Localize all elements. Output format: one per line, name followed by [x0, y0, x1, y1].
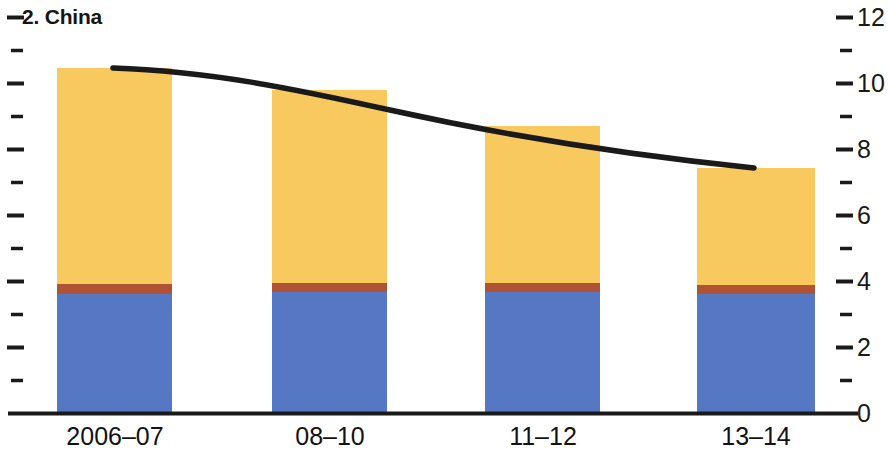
bar-segment-blue — [272, 292, 387, 413]
y-axis-tick-label-6: 6 — [857, 203, 871, 228]
bar-segment-yellow — [57, 68, 172, 284]
y-axis-tick-label-4: 4 — [857, 269, 871, 294]
plot-area: 12 10 8 6 4 2 0 2006–07 08–10 11–12 13–1… — [0, 0, 888, 454]
bar-group-11-12 — [485, 126, 600, 413]
bar-segment-yellow — [697, 168, 815, 285]
left-axis-ticks — [7, 18, 24, 381]
x-axis-category-label-3: 11–12 — [483, 424, 603, 449]
x-axis-category-label-1: 2006–07 — [55, 424, 175, 449]
bar-segment-yellow — [272, 90, 387, 283]
chart-panel: 2. China — [0, 0, 888, 454]
chart-svg — [0, 0, 888, 454]
x-axis-category-label-2: 08–10 — [270, 424, 390, 449]
y-axis-tick-label-0: 0 — [857, 401, 871, 426]
bar-group-08-10 — [272, 90, 387, 413]
bar-group-2006-07 — [57, 68, 172, 413]
bar-segment-yellow — [485, 126, 600, 283]
bar-segment-red — [272, 283, 387, 292]
bar-segment-red — [57, 284, 172, 294]
y-axis-tick-label-12: 12 — [857, 5, 885, 30]
y-axis-tick-label-10: 10 — [857, 71, 885, 96]
y-axis-tick-label-2: 2 — [857, 335, 871, 360]
bar-segment-blue — [57, 294, 172, 413]
bar-segment-red — [485, 283, 600, 292]
trend-line — [113, 68, 754, 168]
bar-group-13-14 — [697, 168, 815, 413]
bar-segment-red — [697, 285, 815, 294]
y-axis-tick-label-8: 8 — [857, 137, 871, 162]
bar-segment-blue — [697, 294, 815, 413]
x-axis-category-label-4: 13–14 — [696, 424, 816, 449]
bar-segment-blue — [485, 292, 600, 413]
right-axis-ticks — [836, 18, 853, 381]
